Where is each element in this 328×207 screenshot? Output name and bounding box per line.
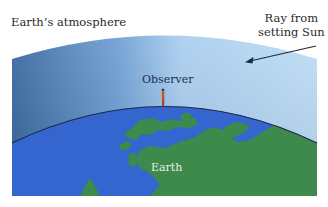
atmosphere-label: Earth’s atmosphere (11, 17, 126, 29)
atmospheric-refraction-diagram: Earth’s atmosphere Ray from setting Sun … (0, 0, 328, 207)
sun-ray-label-line1: Ray from (258, 11, 325, 25)
observer-label: Observer (142, 74, 193, 85)
sun-ray-label-line2: setting Sun (258, 25, 325, 39)
sun-ray-label: Ray from setting Sun (258, 11, 325, 39)
earth-label: Earth (151, 162, 182, 173)
